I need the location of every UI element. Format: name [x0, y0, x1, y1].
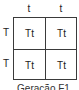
punnett-square: Tt Tt Tt Tt [13, 17, 77, 80]
column-header-2: t [45, 4, 77, 14]
caption: Geração F1 [0, 84, 79, 90]
row-header-1: T [1, 28, 11, 38]
cell-r1-c2: Tt [46, 18, 77, 49]
cell-r1-c1: Tt [14, 18, 45, 49]
cell-r2-c1: Tt [14, 50, 45, 81]
row-header-2: T [1, 59, 11, 69]
cell-r2-c2: Tt [46, 50, 77, 81]
column-header-1: t [13, 4, 45, 14]
